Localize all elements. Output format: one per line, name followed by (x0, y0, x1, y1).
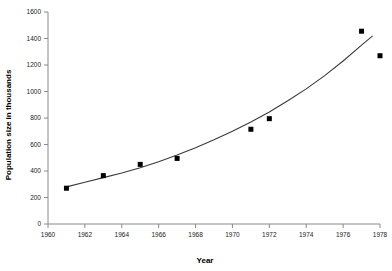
x-tick-label: 1974 (299, 231, 314, 238)
trend-line (66, 36, 372, 187)
x-tick-label: 1972 (262, 231, 277, 238)
x-axis: 1960196219641966196819701972197419761978 (41, 224, 388, 238)
data-point (248, 127, 253, 132)
data-point-markers (64, 29, 383, 191)
data-point (359, 29, 364, 34)
y-tick-label: 1600 (27, 8, 42, 15)
data-point (138, 162, 143, 167)
x-tick-label: 1976 (336, 231, 351, 238)
x-tick-label: 1968 (188, 231, 203, 238)
data-point (378, 53, 383, 58)
y-axis: 02004006008001000120014001600 (27, 8, 48, 227)
y-axis-title: Population size in thousands (4, 69, 13, 180)
y-tick-label: 1000 (27, 88, 42, 95)
chart-container: 02004006008001000120014001600 1960196219… (0, 0, 392, 271)
y-tick-label: 600 (30, 141, 41, 148)
y-tick-label: 400 (30, 167, 41, 174)
y-tick-label: 800 (30, 114, 41, 121)
x-tick-label: 1960 (41, 231, 56, 238)
x-tick-label: 1964 (115, 231, 130, 238)
y-tick-label: 1200 (27, 61, 42, 68)
y-axis-tick-labels: 02004006008001000120014001600 (27, 8, 42, 227)
data-point (175, 156, 180, 161)
data-point (267, 116, 272, 121)
x-axis-ticks (48, 224, 380, 228)
x-axis-tick-labels: 1960196219641966196819701972197419761978 (41, 231, 388, 238)
x-tick-label: 1978 (373, 231, 388, 238)
population-scatter-chart: 02004006008001000120014001600 1960196219… (0, 0, 392, 271)
data-point (101, 173, 106, 178)
x-axis-title: Year (197, 256, 214, 265)
x-tick-label: 1970 (225, 231, 240, 238)
x-tick-label: 1962 (78, 231, 93, 238)
data-point (64, 186, 69, 191)
y-tick-label: 200 (30, 194, 41, 201)
y-tick-label: 1400 (27, 35, 42, 42)
y-tick-label: 0 (37, 220, 41, 227)
y-axis-ticks (44, 12, 48, 224)
x-tick-label: 1966 (151, 231, 166, 238)
